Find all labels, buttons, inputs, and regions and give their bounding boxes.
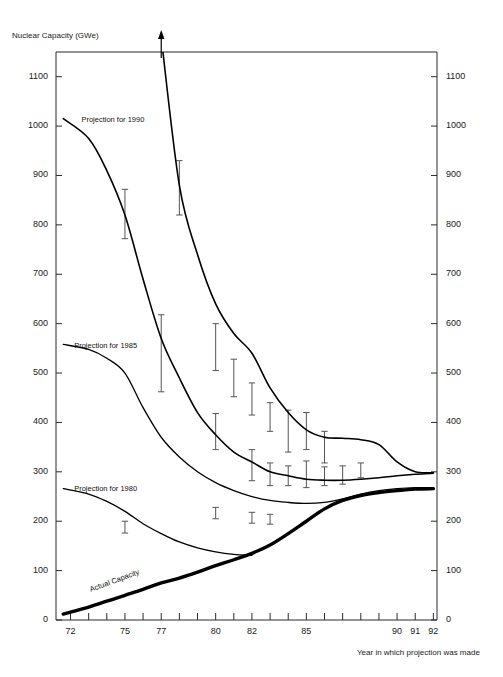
error-bar (249, 512, 255, 523)
error-bar-group (122, 161, 364, 533)
y-tick-label-right-700: 700 (446, 268, 480, 278)
error-bar (267, 514, 273, 524)
error-bar (212, 507, 218, 518)
x-tick-label-72: 72 (55, 626, 87, 636)
series-line (63, 489, 252, 556)
arrow-head (158, 30, 164, 39)
x-tick-label-92: 92 (417, 626, 449, 636)
y-tick-label-right-200: 200 (446, 515, 480, 525)
error-bar (212, 324, 218, 371)
series-label-projection-for-1985: Projection for 1985 (74, 341, 137, 350)
series-label-projection-for-1990: Projection for 1990 (81, 115, 144, 124)
error-bar (122, 521, 128, 533)
series-line (161, 37, 433, 473)
error-bar (249, 383, 255, 415)
error-bar (249, 450, 255, 481)
error-bar (285, 410, 291, 452)
series-label-projection-for-1980: Projection for 1980 (74, 484, 137, 493)
error-bar (267, 463, 273, 486)
y-tick-label-left-300: 300 (14, 466, 48, 476)
axis-frame (56, 52, 437, 620)
error-bar (358, 463, 364, 478)
y-tick-label-left-700: 700 (14, 268, 48, 278)
error-bar (321, 467, 327, 486)
y-tick-label-right-600: 600 (446, 318, 480, 328)
y-tick-label-right-400: 400 (446, 416, 480, 426)
x-tick-label-82: 82 (236, 626, 268, 636)
y-tick-label-left-1000: 1000 (14, 120, 48, 130)
y-tick-label-left-900: 900 (14, 169, 48, 179)
y-tick-label-right-900: 900 (446, 169, 480, 179)
error-bar (303, 461, 309, 488)
y-tick-label-right-1000: 1000 (446, 120, 480, 130)
y-tick-label-left-400: 400 (14, 416, 48, 426)
y-tick-label-left-600: 600 (14, 318, 48, 328)
y-tick-label-right-500: 500 (446, 367, 480, 377)
x-axis-title: Year in which projection was made (357, 648, 480, 657)
error-bar (267, 403, 273, 432)
y-tick-label-right-100: 100 (446, 565, 480, 575)
plot-canvas (0, 0, 503, 677)
y-tick-label-left-200: 200 (14, 515, 48, 525)
y-axis-title: Nuclear Capacity (GWe) (12, 31, 99, 40)
series-line (63, 344, 433, 503)
y-tick-label-left-800: 800 (14, 219, 48, 229)
x-tick-label-75: 75 (109, 626, 141, 636)
y-tick-label-right-0: 0 (446, 614, 480, 624)
x-tick-label-85: 85 (290, 626, 322, 636)
y-tick-label-left-0: 0 (14, 614, 48, 624)
y-tick-label-left-1100: 1100 (14, 71, 48, 81)
error-bar (231, 359, 237, 397)
y-tick-label-left-100: 100 (14, 565, 48, 575)
series-line (63, 119, 433, 481)
error-bar (158, 315, 164, 392)
y-tick-label-right-300: 300 (446, 466, 480, 476)
nuclear-capacity-projection-chart: Nuclear Capacity (GWe) Year in which pro… (0, 0, 503, 677)
y-tick-label-right-1100: 1100 (446, 71, 480, 81)
x-tick-label-77: 77 (145, 626, 177, 636)
y-tick-label-right-800: 800 (446, 219, 480, 229)
error-bar (339, 466, 345, 484)
y-tick-label-left-500: 500 (14, 367, 48, 377)
x-tick-label-80: 80 (200, 626, 232, 636)
